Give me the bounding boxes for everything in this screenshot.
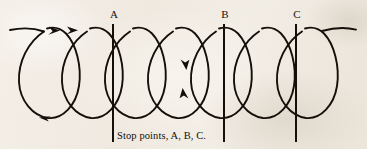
trochoid-curve-diagram bbox=[0, 0, 367, 149]
arrow-loop-down-icon bbox=[181, 59, 190, 70]
stop-point-label-b: B bbox=[215, 9, 235, 20]
path-exit-tail bbox=[322, 28, 356, 31]
stop-point-label-a: A bbox=[104, 9, 124, 20]
stop-point-label-c: C bbox=[287, 9, 307, 20]
figure-caption: Stop points, A, B, C. bbox=[117, 130, 206, 142]
looping-path-group bbox=[10, 28, 356, 118]
path-entry-tail bbox=[10, 28, 44, 31]
arrow-travel-right-2-icon bbox=[66, 26, 78, 34]
arrow-loop-up-icon bbox=[180, 88, 189, 99]
figure-container: A B C Stop points, A, B, C. bbox=[0, 0, 367, 149]
